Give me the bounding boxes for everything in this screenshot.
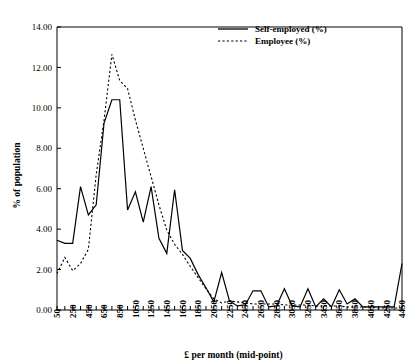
legend-label-employee: Employee (%) <box>255 36 310 46</box>
x-axis-tick-label: 850 <box>115 304 125 318</box>
y-axis-tick-label: 6.00 <box>36 184 52 194</box>
income-distribution-chart: 0.002.004.006.008.0010.0012.0014.0050250… <box>0 0 412 363</box>
x-axis-title: £ per month (mid-point) <box>184 350 282 361</box>
x-axis-tick-label: 3250 <box>303 300 313 319</box>
x-axis-tick-label: 3650 <box>334 300 344 319</box>
y-axis-tick-label: 4.00 <box>36 224 52 234</box>
y-axis-tick-label: 14.00 <box>32 22 53 32</box>
x-axis-tick-label: 3050 <box>287 300 297 319</box>
x-axis-tick-label: 450 <box>84 304 94 318</box>
x-axis-tick-label: 2650 <box>256 300 266 319</box>
x-axis-tick-label: 2850 <box>272 300 282 319</box>
x-axis-tick-label: 1250 <box>146 300 156 319</box>
x-axis-tick-label: 4050 <box>366 300 376 319</box>
x-axis-tick-label: 4450 <box>397 300 407 319</box>
y-axis-tick-label: 12.00 <box>32 63 53 73</box>
x-axis-tick-label: 1050 <box>131 300 141 319</box>
y-axis-tick-label: 8.00 <box>36 143 52 153</box>
x-axis-tick-label: 1450 <box>162 300 172 319</box>
chart-figure: 0.002.004.006.008.0010.0012.0014.0050250… <box>0 0 412 363</box>
x-axis-tick-label: 50 <box>52 309 62 319</box>
x-axis-tick-label: 250 <box>68 304 78 318</box>
y-axis-tick-label: 10.00 <box>32 103 53 113</box>
x-axis-tick-label: 650 <box>99 304 109 318</box>
y-axis-title: % of population <box>12 142 22 209</box>
x-axis-tick-label: 4250 <box>382 300 392 319</box>
y-axis-tick-label: 2.00 <box>36 265 52 275</box>
y-axis-tick-label: 0.00 <box>36 305 52 315</box>
plot-frame <box>57 27 402 310</box>
legend-label-self-employed: Self-employed (%) <box>255 24 327 34</box>
series-line-employee <box>57 54 402 308</box>
x-axis-tick-label: 1650 <box>178 300 188 319</box>
series-line-self-employed <box>57 100 402 307</box>
x-axis-tick-label: 1850 <box>193 300 203 319</box>
